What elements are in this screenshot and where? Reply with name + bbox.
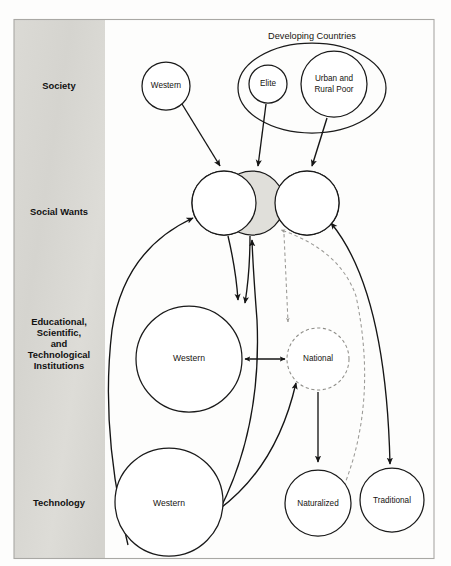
diagram-svg: Society Social Wants Educational, Scient… bbox=[0, 0, 451, 566]
svg-text:Educational,: Educational, bbox=[31, 316, 87, 327]
band-label-society: Society bbox=[42, 80, 76, 91]
edge-wants-to-institution-western-a bbox=[228, 236, 238, 300]
node-label-rural-poor: Rural Poor bbox=[314, 85, 353, 94]
svg-text:Technological: Technological bbox=[28, 349, 90, 360]
node-label-urban-and: Urban and bbox=[315, 74, 354, 83]
node-label-institution-national: National bbox=[303, 354, 333, 363]
node-label-technology-naturalized: Naturalized bbox=[297, 499, 339, 508]
edge-elite-to-wants bbox=[258, 104, 266, 166]
node-label-technology-western: Western bbox=[153, 498, 185, 508]
node-social-wants-right-outline bbox=[275, 171, 339, 235]
category-band bbox=[14, 20, 105, 558]
band-label-social-wants: Social Wants bbox=[30, 206, 88, 217]
group-label-developing-countries: Developing Countries bbox=[268, 31, 356, 41]
svg-text:Scientific,: Scientific, bbox=[37, 327, 81, 338]
node-label-institution-western: Western bbox=[173, 353, 205, 363]
node-social-wants-left-outline bbox=[192, 171, 256, 235]
node-label-technology-traditional: Traditional bbox=[373, 496, 411, 505]
band-label-technology: Technology bbox=[33, 497, 86, 508]
edge-urban-poor-to-wants bbox=[312, 118, 327, 166]
edge-technology-western-to-national bbox=[214, 383, 296, 513]
svg-text:Institutions: Institutions bbox=[34, 360, 85, 371]
edge-wants-to-institution-western-b bbox=[245, 236, 250, 303]
diagram-canvas: Society Social Wants Educational, Scient… bbox=[0, 0, 451, 566]
edge-wants-to-national bbox=[284, 234, 288, 322]
edge-society-western-to-wants bbox=[182, 104, 220, 166]
node-label-society-western: Western bbox=[151, 81, 182, 90]
svg-text:and: and bbox=[51, 338, 68, 349]
node-label-society-elite: Elite bbox=[260, 79, 276, 88]
node-society-urban-rural-poor[interactable] bbox=[301, 51, 367, 117]
